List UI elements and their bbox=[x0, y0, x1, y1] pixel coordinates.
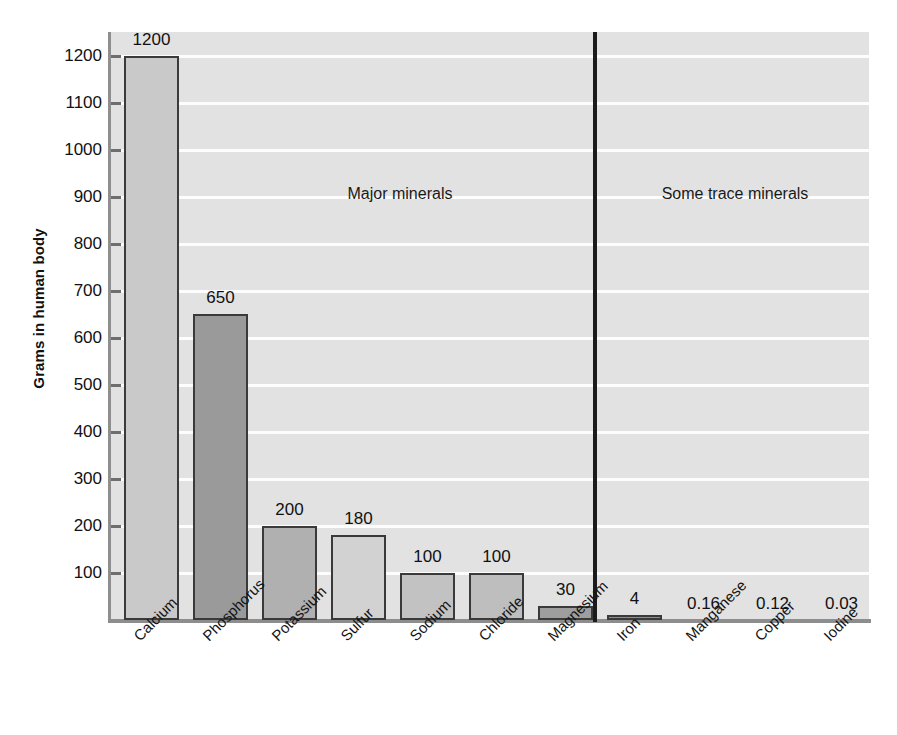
bar-value-label: 1200 bbox=[108, 30, 195, 50]
x-axis-category-label: Phosphorus bbox=[199, 575, 268, 644]
bar-value-label: 650 bbox=[177, 288, 264, 308]
bar-value-label: 180 bbox=[315, 509, 402, 529]
x-axis-category-label: Sodium bbox=[406, 596, 454, 644]
group-annotation: Major minerals bbox=[280, 185, 520, 203]
bar-value-label: 100 bbox=[453, 547, 540, 567]
labels-layer: 1200Calcium650Phosphorus200Potassium180S… bbox=[0, 0, 897, 735]
x-axis-category-label: Calcium bbox=[130, 594, 180, 644]
mineral-content-bar-chart: Grams in human body 10020030040050060070… bbox=[0, 0, 897, 735]
x-axis-category-label: Potassium bbox=[268, 582, 330, 644]
x-axis-category-label: Iron bbox=[613, 614, 643, 644]
group-annotation: Some trace minerals bbox=[615, 185, 855, 203]
x-axis-category-label: Sulfur bbox=[337, 604, 377, 644]
x-axis-category-label: Chloride bbox=[475, 592, 527, 644]
